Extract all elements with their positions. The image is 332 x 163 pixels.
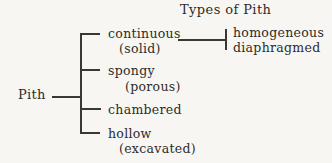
subtype-label-homogeneous: homogeneous [233, 26, 324, 40]
branch-label-chambered: chambered [108, 103, 182, 117]
diagram-title: Types of Pith [180, 3, 271, 17]
branch-detail-excavated: (excavated) [119, 142, 196, 156]
tick-chambered [80, 108, 101, 110]
branch-detail-porous: (porous) [125, 80, 181, 94]
branch-detail-solid: (solid) [119, 42, 161, 56]
bracket-vertical-line [80, 33, 82, 133]
subtypes-bracket-line [225, 29, 227, 50]
pith-diagram: { "title": "Types of Pith", "root_label"… [0, 0, 332, 163]
tick-hollow [80, 132, 100, 134]
branch-label-spongy: spongy [108, 64, 155, 78]
tick-continuous [80, 33, 100, 35]
branch-label-hollow: hollow [108, 127, 152, 141]
root-node-label: Pith [18, 88, 46, 102]
root-connector-line [52, 96, 81, 98]
subtype-label-diaphragmed: diaphragmed [233, 41, 321, 55]
continuous-subtypes-connector-line [178, 39, 226, 41]
branch-label-continuous: continuous [108, 27, 181, 41]
tick-spongy [80, 69, 100, 71]
